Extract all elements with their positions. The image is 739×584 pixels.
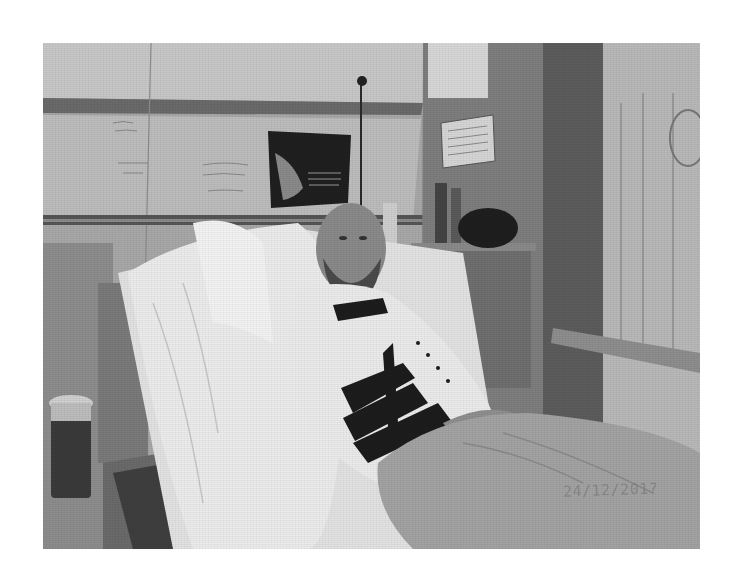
dark-bag (458, 208, 518, 248)
wall-notice (441, 115, 495, 168)
date-stamp: 24/12/201? (563, 479, 659, 500)
hospital-photo: 24/12/201? Grayscale photograph of a bea… (43, 43, 700, 549)
photo-scene (43, 43, 700, 549)
